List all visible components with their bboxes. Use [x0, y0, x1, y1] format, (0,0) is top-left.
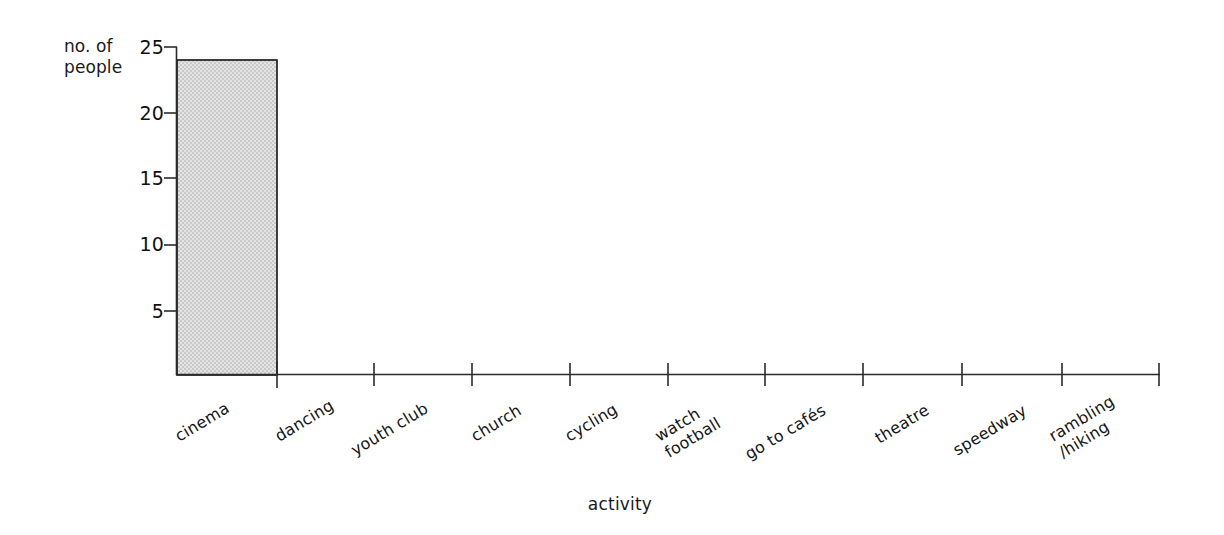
- chart-plot-area: [0, 0, 1224, 535]
- chart-canvas: no. of people activity 25 20 15 10 5 cin…: [0, 0, 1224, 535]
- bar-cinema: [177, 60, 277, 375]
